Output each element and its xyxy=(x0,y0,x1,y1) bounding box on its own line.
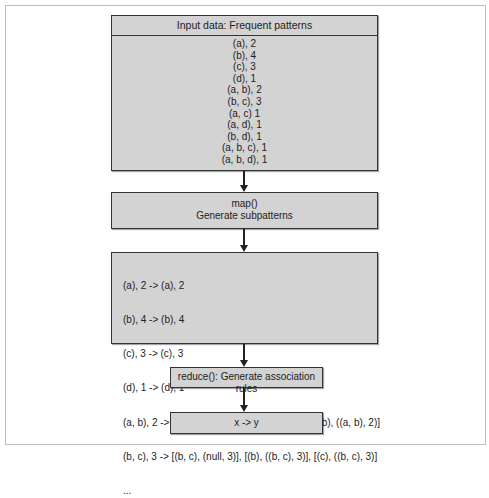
pattern-line: (a, b), 2 xyxy=(112,84,377,96)
subpattern-line: (b), 4 -> (b), 4 xyxy=(123,314,377,325)
input-data-title: Input data: Frequent patterns xyxy=(112,16,377,36)
arrow-down-icon xyxy=(240,245,248,252)
output-box: x -> y xyxy=(170,412,323,434)
pattern-line: (a, b, d), 1 xyxy=(112,154,377,166)
reduce-box: reduce(): Generate association rules xyxy=(170,367,323,388)
subpatterns-box: (a), 2 -> (a), 2 (b), 4 -> (b), 4 (c), 3… xyxy=(111,252,378,344)
pattern-line: (a, d), 1 xyxy=(112,119,377,131)
pattern-line: (a, c) 1 xyxy=(112,108,377,120)
arrow-subpatterns-to-reduce-line xyxy=(243,344,245,361)
arrow-map-to-subpatterns-line xyxy=(243,229,245,246)
pattern-line: (c), 3 xyxy=(112,61,377,73)
subpattern-line: (c), 3 -> (c), 3 xyxy=(123,348,377,359)
frequent-patterns-list: (a), 2 (b), 4 (c), 3 (d), 1 (a, b), 2 (b… xyxy=(112,36,377,166)
subpattern-line-ellipsis: ... xyxy=(123,485,377,496)
map-description-label: Generate subpatterns xyxy=(112,210,377,222)
pattern-line: (b, d), 1 xyxy=(112,131,377,143)
arrow-input-to-map-line xyxy=(243,171,245,186)
arrow-down-icon xyxy=(240,185,248,192)
pattern-line: (d), 1 xyxy=(112,73,377,85)
input-data-box: Input data: Frequent patterns (a), 2 (b)… xyxy=(111,15,378,171)
reduce-label: reduce(): Generate association rules xyxy=(171,371,322,394)
map-function-label: map() xyxy=(112,198,377,210)
subpattern-line: (a), 2 -> (a), 2 xyxy=(123,280,377,291)
pattern-line: (b), 4 xyxy=(112,50,377,62)
map-box: map() Generate subpatterns xyxy=(111,192,378,229)
arrow-down-icon xyxy=(240,405,248,412)
output-rule-label: x -> y xyxy=(171,417,322,429)
arrow-down-icon xyxy=(240,360,248,367)
arrow-reduce-to-output-line xyxy=(243,388,245,406)
pattern-line: (a, b, c), 1 xyxy=(112,142,377,154)
pattern-line: (a), 2 xyxy=(112,38,377,50)
pattern-line: (b, c), 3 xyxy=(112,96,377,108)
subpattern-line: (b, c), 3 -> [(b, c), (null, 3)], [(b), … xyxy=(123,451,377,462)
